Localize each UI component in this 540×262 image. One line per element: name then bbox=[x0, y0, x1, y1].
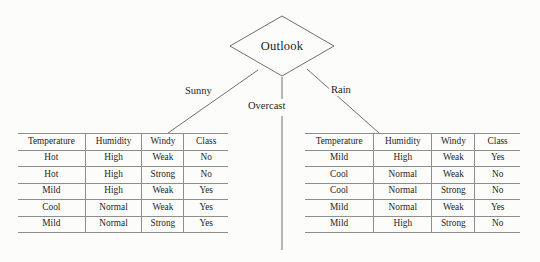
cell-class: No bbox=[475, 216, 520, 233]
cell-class: No bbox=[184, 167, 228, 184]
cell-class: No bbox=[475, 167, 520, 184]
table-header-row: Temperature Humidity Windy Class bbox=[305, 134, 520, 151]
cell-temperature: Mild bbox=[305, 216, 374, 233]
cell-humidity: High bbox=[374, 216, 432, 233]
table-row: Mild Normal Weak Yes bbox=[305, 200, 520, 217]
table-body: Mild High Weak Yes Cool Normal Weak No C… bbox=[305, 150, 520, 233]
cell-temperature: Mild bbox=[305, 200, 374, 217]
table-header-row: Temperature Humidity Windy Class bbox=[18, 134, 228, 151]
table-row: Hot High Strong No bbox=[18, 167, 228, 184]
cell-class: Yes bbox=[475, 150, 520, 167]
decision-tree-diagram: Outlook Sunny Overcast Rain Temperature … bbox=[0, 0, 540, 262]
cell-temperature: Cool bbox=[305, 183, 374, 200]
cell-class: Yes bbox=[184, 200, 228, 217]
cell-windy: Strong bbox=[432, 183, 475, 200]
edge-label-overcast: Overcast bbox=[246, 100, 287, 112]
table-row: Cool Normal Weak Yes bbox=[18, 200, 228, 217]
cell-temperature: Mild bbox=[18, 183, 85, 200]
cell-windy: Strong bbox=[142, 167, 184, 184]
cell-class: Yes bbox=[184, 183, 228, 200]
cell-windy: Strong bbox=[432, 216, 475, 233]
cell-class: No bbox=[184, 150, 228, 167]
column-header-temperature: Temperature bbox=[305, 134, 374, 151]
leaf-table-sunny: Temperature Humidity Windy Class Hot Hig… bbox=[18, 133, 228, 233]
edge-label-sunny: Sunny bbox=[183, 85, 214, 97]
edge-label-rain: Rain bbox=[329, 84, 353, 96]
table-row: Mild High Strong No bbox=[305, 216, 520, 233]
root-node-label: Outlook bbox=[229, 15, 335, 77]
cell-windy: Weak bbox=[142, 150, 184, 167]
cell-humidity: Normal bbox=[85, 200, 142, 217]
cell-humidity: High bbox=[85, 150, 142, 167]
cell-windy: Weak bbox=[432, 200, 475, 217]
table-row: Hot High Weak No bbox=[18, 150, 228, 167]
cell-temperature: Hot bbox=[18, 150, 85, 167]
table-row: Cool Normal Strong No bbox=[305, 183, 520, 200]
cell-temperature: Cool bbox=[18, 200, 85, 217]
cell-class: No bbox=[475, 183, 520, 200]
cell-windy: Weak bbox=[432, 150, 475, 167]
cell-temperature: Cool bbox=[305, 167, 374, 184]
column-header-temperature: Temperature bbox=[18, 134, 85, 151]
cell-class: Yes bbox=[475, 200, 520, 217]
cell-class: Yes bbox=[184, 216, 228, 233]
cell-temperature: Mild bbox=[18, 216, 85, 233]
table-row: Mild High Weak Yes bbox=[305, 150, 520, 167]
edge-sunny bbox=[168, 70, 258, 133]
cell-humidity: High bbox=[374, 150, 432, 167]
root-node-outlook[interactable]: Outlook bbox=[229, 15, 335, 77]
cell-humidity: Normal bbox=[85, 216, 142, 233]
table-row: Mild High Weak Yes bbox=[18, 183, 228, 200]
cell-humidity: Normal bbox=[374, 167, 432, 184]
table-row: Mild Normal Strong Yes bbox=[18, 216, 228, 233]
column-header-humidity: Humidity bbox=[85, 134, 142, 151]
column-header-windy: Windy bbox=[142, 134, 184, 151]
cell-windy: Weak bbox=[432, 167, 475, 184]
column-header-humidity: Humidity bbox=[374, 134, 432, 151]
cell-windy: Strong bbox=[142, 216, 184, 233]
column-header-class: Class bbox=[184, 134, 228, 151]
column-header-class: Class bbox=[475, 134, 520, 151]
table-body: Hot High Weak No Hot High Strong No Mild… bbox=[18, 150, 228, 233]
cell-humidity: High bbox=[85, 183, 142, 200]
table-row: Cool Normal Weak No bbox=[305, 167, 520, 184]
cell-humidity: High bbox=[85, 167, 142, 184]
cell-windy: Weak bbox=[142, 183, 184, 200]
cell-temperature: Hot bbox=[18, 167, 85, 184]
column-header-windy: Windy bbox=[432, 134, 475, 151]
cell-humidity: Normal bbox=[374, 200, 432, 217]
edge-rain bbox=[307, 69, 379, 133]
cell-humidity: Normal bbox=[374, 183, 432, 200]
leaf-table-rain: Temperature Humidity Windy Class Mild Hi… bbox=[305, 133, 520, 233]
cell-temperature: Mild bbox=[305, 150, 374, 167]
cell-windy: Weak bbox=[142, 200, 184, 217]
